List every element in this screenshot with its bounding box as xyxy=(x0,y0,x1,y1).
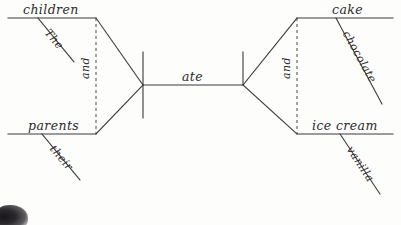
arm-subject-upper xyxy=(96,18,143,85)
word-subject-conjunction: and xyxy=(79,57,92,79)
word-subject-upper: children xyxy=(23,2,79,17)
word-verb: ate xyxy=(182,69,203,84)
word-object-conjunction: and xyxy=(280,57,293,79)
word-subject-lower: parents xyxy=(28,118,79,133)
word-object-lower: ice cream xyxy=(312,118,378,133)
arm-subject-lower xyxy=(96,85,143,134)
arm-object-lower xyxy=(243,85,297,134)
sentence-diagram-canvas: children The parents their and ate cake … xyxy=(0,0,401,225)
word-object-upper: cake xyxy=(332,2,363,17)
